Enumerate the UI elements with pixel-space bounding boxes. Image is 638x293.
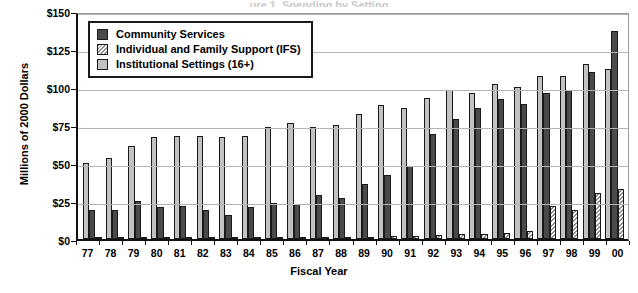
bar-group	[444, 14, 467, 239]
bar-group	[580, 14, 603, 239]
bar[interactable]	[459, 234, 465, 239]
x-axis-tick-label: 91	[399, 247, 422, 261]
x-axis-tick-label: 82	[191, 247, 214, 261]
y-axis-tick-mark	[71, 127, 76, 128]
y-axis-tick-mark	[71, 89, 76, 90]
bar[interactable]	[368, 237, 374, 239]
bar[interactable]	[322, 237, 328, 239]
y-axis-tick-label: $125	[24, 46, 70, 56]
x-axis-tick-mark	[468, 241, 469, 245]
x-axis-labels: 7778798081828384858687888990919293949596…	[76, 247, 629, 261]
bar[interactable]	[89, 210, 95, 239]
bar-group	[422, 14, 445, 239]
x-axis-tick-mark	[191, 241, 192, 245]
bar[interactable]	[180, 206, 186, 239]
bar[interactable]	[300, 237, 306, 239]
bar[interactable]	[521, 104, 527, 239]
bar[interactable]	[186, 237, 192, 239]
chart-legend: Community Services Individual and Family…	[88, 21, 313, 78]
legend-label: Individual and Family Support (IFS)	[116, 43, 301, 56]
bar[interactable]	[225, 215, 231, 239]
bar[interactable]	[436, 235, 442, 239]
gridline	[78, 166, 628, 167]
bar[interactable]	[277, 237, 283, 239]
bar-group	[353, 14, 376, 239]
y-axis-tick-label: $100	[24, 84, 70, 94]
x-axis-tick-label: 86	[283, 247, 306, 261]
bar[interactable]	[550, 206, 556, 239]
bar[interactable]	[316, 195, 322, 239]
hatched-square-icon	[97, 44, 108, 55]
x-axis-tick-label: 92	[422, 247, 445, 261]
x-axis-tick-label: 87	[306, 247, 329, 261]
x-axis-tick-mark	[260, 241, 261, 245]
x-axis-tick-mark	[168, 241, 169, 245]
dark-gray-square-icon	[97, 29, 108, 40]
legend-item-institutional: Institutional Settings (16+)	[97, 57, 301, 72]
x-axis-tick-label: 83	[214, 247, 237, 261]
bar[interactable]	[157, 207, 163, 239]
x-axis-tick-mark	[514, 241, 515, 245]
bar[interactable]	[141, 237, 147, 239]
x-axis-tick-mark	[329, 241, 330, 245]
x-axis-tick-mark	[422, 241, 423, 245]
light-gray-square-icon	[97, 59, 108, 70]
bar[interactable]	[430, 134, 436, 239]
bar[interactable]	[413, 236, 419, 239]
x-axis-tick-mark	[283, 241, 284, 245]
bar[interactable]	[118, 237, 124, 239]
bar[interactable]	[618, 189, 624, 239]
bar[interactable]	[135, 201, 141, 239]
bar[interactable]	[595, 193, 601, 239]
bar[interactable]	[95, 237, 101, 239]
bar[interactable]	[203, 210, 209, 239]
x-axis-tick-mark	[214, 241, 215, 245]
x-axis-tick-marks	[76, 241, 629, 245]
x-axis-tick-label: 85	[260, 247, 283, 261]
bar[interactable]	[384, 175, 390, 239]
x-axis-tick-label: 98	[560, 247, 583, 261]
gridline	[78, 90, 628, 91]
bar[interactable]	[504, 233, 510, 239]
bar[interactable]	[294, 204, 300, 239]
x-axis-tick-label: 99	[583, 247, 606, 261]
bar-chart: ure 1. Spending by Setting Millions of 2…	[0, 0, 638, 293]
bar[interactable]	[453, 119, 459, 239]
bar[interactable]	[572, 210, 578, 239]
x-axis-tick-label: 88	[330, 247, 353, 261]
x-axis-tick-label: 79	[122, 247, 145, 261]
bar-group	[558, 14, 581, 239]
x-axis-tick-mark	[491, 241, 492, 245]
bar-group	[399, 14, 422, 239]
bar[interactable]	[209, 237, 215, 239]
bar[interactable]	[391, 236, 397, 239]
x-axis-tick-mark	[399, 241, 400, 245]
bar[interactable]	[112, 210, 118, 239]
bar-group	[490, 14, 513, 239]
bar[interactable]	[407, 166, 413, 239]
x-axis-tick-label: 80	[145, 247, 168, 261]
bar[interactable]	[232, 237, 238, 239]
bar[interactable]	[164, 237, 170, 239]
y-axis-tick-label: $0	[24, 236, 70, 246]
x-axis-tick-mark	[99, 241, 100, 245]
bar-group	[603, 14, 626, 239]
y-axis-tick-label: $75	[24, 122, 70, 132]
y-axis-tick-label: $50	[24, 160, 70, 170]
bar-group	[331, 14, 354, 239]
legend-item-community-services: Community Services	[97, 27, 301, 42]
bar[interactable]	[248, 207, 254, 239]
bar[interactable]	[481, 234, 487, 239]
bar[interactable]	[362, 184, 368, 239]
bar[interactable]	[527, 231, 533, 239]
x-axis-tick-mark	[237, 241, 238, 245]
bar[interactable]	[498, 99, 504, 239]
bar[interactable]	[254, 237, 260, 239]
bar[interactable]	[345, 237, 351, 239]
x-axis-tick-label: 00	[606, 247, 629, 261]
gridline	[78, 204, 628, 205]
x-axis-tick-label: 78	[99, 247, 122, 261]
x-axis-tick-label: 96	[514, 247, 537, 261]
x-axis-tick-label: 93	[445, 247, 468, 261]
bar[interactable]	[271, 203, 277, 239]
